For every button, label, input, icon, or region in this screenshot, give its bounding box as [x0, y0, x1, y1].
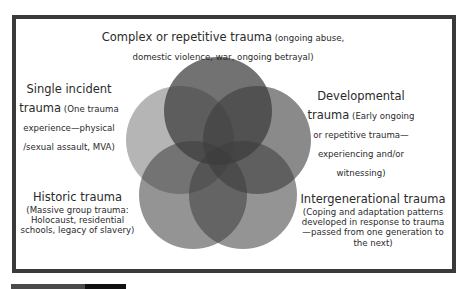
label-title: Historic trauma — [20, 191, 135, 205]
bar-segment-black — [85, 284, 126, 289]
label-title-cont: trauma — [19, 101, 61, 115]
bar-segment-gray — [11, 284, 85, 289]
label-title: Intergenerational trauma — [298, 193, 448, 207]
label-complex-trauma: Complex or repetitive trauma (ongoing ab… — [88, 26, 358, 64]
label-desc: (Massive group trauma: Holocaust, reside… — [20, 205, 135, 236]
circle-intergenerational — [189, 141, 297, 249]
bottom-decorative-bar — [11, 284, 126, 289]
label-desc: (Coping and adaptation patterns develope… — [298, 207, 448, 248]
label-title-cont: trauma — [307, 108, 349, 122]
label-title: Complex or repetitive trauma — [102, 30, 272, 44]
label-title: Developmental — [306, 90, 416, 104]
label-developmental-trauma: Developmental trauma (Early ongoing or r… — [306, 90, 416, 181]
label-intergenerational-trauma: Intergenerational trauma (Coping and ada… — [298, 193, 448, 248]
label-single-incident-trauma: Single incident trauma (One trauma exper… — [14, 83, 124, 154]
label-title: Single incident — [14, 83, 124, 97]
label-historic-trauma: Historic trauma (Massive group trauma: H… — [20, 191, 135, 236]
